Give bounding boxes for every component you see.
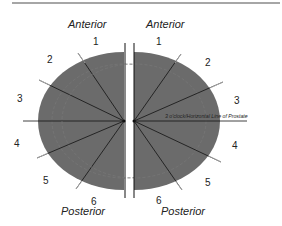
left-clock-4: 4 [14, 138, 20, 149]
right-clock-2: 2 [205, 57, 211, 68]
left-line-4-ext [37, 153, 48, 158]
right-anterior-label: Anterior [145, 18, 186, 30]
left-clock-1: 1 [93, 36, 99, 47]
right-line-2-ext [210, 82, 223, 88]
left-line-5-ext [76, 181, 82, 189]
right-line-1-ext [175, 54, 181, 63]
right-posterior-label: Posterior [161, 205, 206, 217]
left-anterior-label: Anterior [67, 18, 108, 30]
left-posterior-label: Posterior [61, 205, 106, 217]
right-clock-4: 4 [232, 140, 238, 151]
left-clock-5: 5 [43, 175, 49, 186]
prostate-clock-diagram: Anterior 1 2 3 4 5 6 Posterior Anterior … [0, 0, 282, 226]
right-clock-3: 3 [234, 95, 240, 106]
right-clock-1: 1 [156, 36, 162, 47]
right-clock-5: 5 [205, 177, 211, 188]
right-line-4-ext [209, 156, 221, 162]
right-line-5-ext [176, 182, 182, 190]
left-clock-3: 3 [17, 93, 23, 104]
left-clock-2: 2 [47, 54, 53, 65]
horizontal-line-label: 3 o'clock/Horizontal Line of Prostate [165, 113, 248, 119]
left-line-2-ext [39, 80, 50, 85]
